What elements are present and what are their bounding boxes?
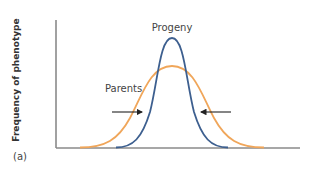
progeny-label: Progeny: [152, 22, 193, 33]
panel-label: (a): [13, 151, 27, 162]
chart-canvas: Progeny Parents: [0, 0, 314, 170]
parents-label: Parents: [105, 83, 142, 94]
parents-curve: [80, 66, 264, 148]
